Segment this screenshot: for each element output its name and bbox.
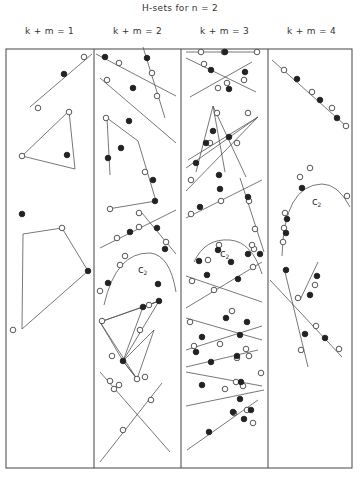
filled-point	[242, 69, 248, 75]
open-point	[309, 89, 315, 95]
filled-point	[302, 331, 308, 337]
filled-point	[322, 335, 328, 341]
filled-point	[120, 358, 126, 364]
filled-point	[223, 315, 229, 321]
polygon	[22, 111, 75, 169]
open-point	[117, 262, 123, 268]
filled-point	[314, 273, 320, 279]
filled-point	[307, 292, 313, 298]
filled-point	[118, 145, 124, 151]
filled-point	[152, 198, 158, 204]
open-point	[281, 67, 287, 73]
open-point	[280, 239, 286, 245]
filled-point	[235, 276, 241, 282]
open-point	[66, 109, 72, 115]
filled-point	[216, 172, 222, 178]
open-point	[104, 77, 110, 83]
filled-point	[196, 258, 202, 264]
open-point	[198, 49, 204, 55]
open-point	[252, 226, 258, 232]
line-segment	[107, 118, 138, 141]
open-point	[149, 70, 155, 76]
filled-point	[140, 304, 146, 310]
filled-point	[241, 416, 247, 422]
open-point	[188, 211, 194, 217]
filled-point	[197, 204, 203, 210]
open-point	[298, 347, 304, 353]
filled-point	[226, 134, 232, 140]
open-point	[103, 115, 109, 121]
filled-point	[203, 140, 209, 146]
open-point	[116, 382, 122, 388]
open-point	[19, 153, 25, 159]
filled-point	[237, 332, 243, 338]
open-point	[336, 346, 342, 352]
filled-point	[144, 55, 150, 61]
line-segment	[240, 178, 264, 252]
open-point	[191, 343, 197, 349]
filled-point	[19, 211, 25, 217]
open-point	[246, 353, 252, 359]
open-point	[136, 224, 142, 230]
open-point	[107, 378, 113, 384]
open-point	[205, 257, 211, 263]
open-point	[111, 386, 117, 392]
filled-point	[283, 267, 289, 273]
line-segment	[100, 383, 162, 462]
open-point	[344, 193, 350, 199]
open-point	[99, 318, 105, 324]
filled-point	[155, 281, 161, 287]
open-point	[211, 287, 217, 293]
open-point	[224, 80, 230, 86]
open-point	[245, 110, 251, 116]
frame-border	[6, 49, 352, 468]
open-point	[234, 140, 240, 146]
filled-point	[105, 280, 111, 286]
filled-point	[257, 251, 263, 257]
filled-point	[283, 230, 289, 236]
open-point	[250, 420, 256, 426]
line-segment	[213, 106, 225, 172]
conic-curve	[282, 184, 350, 256]
conic-curve	[104, 253, 176, 305]
filled-point	[199, 382, 205, 388]
filled-point	[61, 71, 67, 77]
line-segment	[108, 201, 156, 209]
line-segment	[100, 78, 176, 143]
open-point	[146, 302, 152, 308]
filled-point	[222, 49, 228, 55]
open-point	[142, 169, 148, 175]
polygon	[100, 322, 137, 379]
line-segment	[270, 280, 342, 357]
open-point	[229, 308, 235, 314]
filled-point	[244, 319, 250, 325]
table-frame	[6, 49, 352, 468]
open-point	[215, 85, 221, 91]
open-point	[134, 376, 140, 382]
open-points	[10, 49, 350, 433]
filled-point	[217, 186, 223, 192]
filled-point	[85, 268, 91, 274]
line-segment	[188, 117, 258, 160]
open-point	[163, 239, 169, 245]
open-point	[218, 198, 224, 204]
filled-point	[208, 67, 214, 73]
filled-point	[64, 152, 70, 158]
open-point	[258, 370, 264, 376]
filled-point	[154, 225, 160, 231]
open-point	[254, 49, 260, 55]
open-point	[295, 295, 301, 301]
filled-point	[284, 216, 290, 222]
line-segment	[107, 118, 110, 175]
filled-point	[193, 349, 199, 355]
open-point	[59, 225, 65, 231]
open-point	[313, 323, 319, 329]
line-segment	[186, 318, 262, 340]
open-point	[122, 253, 128, 259]
line-segment	[30, 54, 92, 107]
open-point	[189, 278, 195, 284]
open-point	[136, 210, 142, 216]
open-point	[297, 174, 303, 180]
filled-point	[105, 155, 111, 161]
filled-point	[150, 177, 156, 183]
